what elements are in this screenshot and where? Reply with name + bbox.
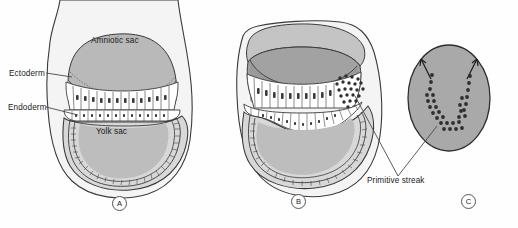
label-amniotic-sac: Amniotic sac [91,37,139,45]
embryology-figure: Ectoderm Endoderm Amniotic sac Yolk sac … [0,0,518,228]
figure-caption [0,222,518,228]
panel-a-endoderm-layer [64,110,180,121]
panel-tag-c: C [461,194,476,209]
label-endoderm: Endoderm [8,104,47,112]
panel-c [408,45,490,151]
panel-a [46,0,192,198]
label-ectoderm: Ectoderm [9,70,45,78]
label-primitive-streak: Primitive streak [367,177,425,185]
panel-tag-b: B [291,194,306,209]
panel-tag-a: A [112,196,127,211]
panel-b [237,21,382,197]
figure-svg [0,0,518,228]
label-yolk-sac: Yolk sac [96,128,127,136]
